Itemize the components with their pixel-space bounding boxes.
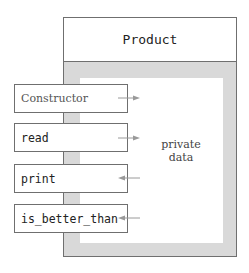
arrow-left-icon xyxy=(118,214,140,222)
private-data-label: private data xyxy=(150,138,212,164)
arrow-right-icon xyxy=(118,94,140,102)
method-label: is_better_than xyxy=(21,212,118,226)
method-print: print xyxy=(14,164,128,193)
method-constructor: Constructor xyxy=(14,84,128,113)
method-label: print xyxy=(21,172,56,186)
class-name: Product xyxy=(123,32,178,47)
private-label-line-1: private xyxy=(150,138,212,151)
method-label: read xyxy=(21,131,49,145)
private-label-line-2: data xyxy=(150,151,212,164)
method-read: read xyxy=(14,123,128,152)
class-name-header: Product xyxy=(64,18,236,62)
arrow-left-icon xyxy=(118,174,140,182)
method-is-better-than: is_better_than xyxy=(14,204,128,233)
method-label: Constructor xyxy=(21,92,88,105)
arrow-right-icon xyxy=(118,134,140,142)
